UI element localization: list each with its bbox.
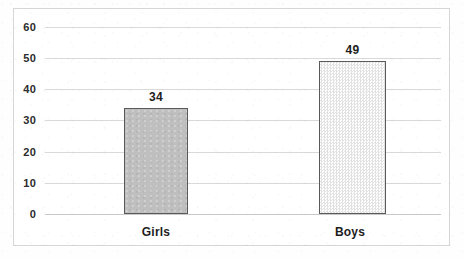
category-label-boys: Boys <box>335 225 365 239</box>
bar-chart-screenshot: 60 50 40 30 20 10 0 34 <box>0 0 464 259</box>
plot-area: 60 50 40 30 20 10 0 34 <box>45 27 441 214</box>
bar-column-boys: 49 Boys <box>305 27 395 214</box>
ytick-label-10: 10 <box>23 177 36 189</box>
ytick-label-60: 60 <box>23 21 36 33</box>
bar-value-boys: 49 <box>346 43 360 57</box>
bar-column-girls: 34 Girls <box>111 27 201 214</box>
ytick-label-0: 0 <box>30 208 36 220</box>
ytick-label-30: 30 <box>23 114 36 126</box>
bar-boys[interactable]: 49 <box>319 61 386 214</box>
bar-value-girls: 34 <box>149 90 163 104</box>
ytick-label-20: 20 <box>23 146 36 158</box>
ytick-label-50: 50 <box>23 52 36 64</box>
chart-plot-frame: 60 50 40 30 20 10 0 34 <box>13 8 450 246</box>
gridline-0-baseline: 0 <box>45 214 441 215</box>
category-label-girls: Girls <box>142 225 170 239</box>
ytick-label-40: 40 <box>23 83 36 95</box>
bar-girls[interactable]: 34 <box>124 108 188 214</box>
